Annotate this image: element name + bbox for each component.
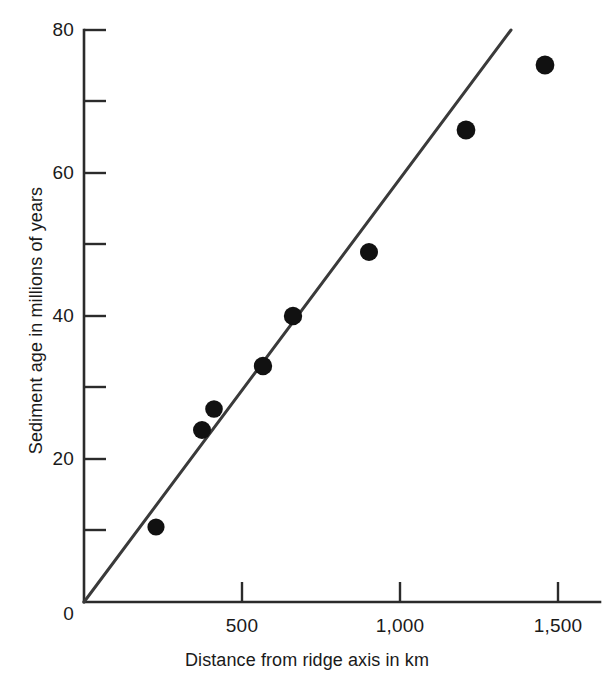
data-point	[536, 56, 555, 75]
data-point	[457, 121, 476, 140]
data-point	[147, 518, 164, 535]
plot-area	[0, 0, 614, 687]
data-point	[284, 307, 302, 325]
x-tick-label-1500: 1,500	[534, 615, 583, 637]
data-point	[205, 400, 223, 418]
x-tick-label-500: 500	[226, 615, 258, 637]
y-tick-label-0: 0	[22, 603, 74, 625]
data-point	[193, 421, 211, 439]
data-point	[360, 243, 378, 261]
x-axis-title: Distance from ridge axis in km	[0, 650, 614, 671]
x-axis-ticks	[242, 582, 558, 602]
scatter-chart: 80 60 40 20 0 500 1,000 1,500 Distance f…	[0, 0, 614, 687]
y-axis-ticks	[84, 30, 106, 530]
data-points	[147, 56, 554, 536]
data-point	[254, 357, 272, 375]
y-tick-label-80: 80	[22, 19, 74, 41]
x-tick-label-1000: 1,000	[376, 615, 425, 637]
y-axis-title: Sediment age in millions of years	[26, 71, 47, 571]
